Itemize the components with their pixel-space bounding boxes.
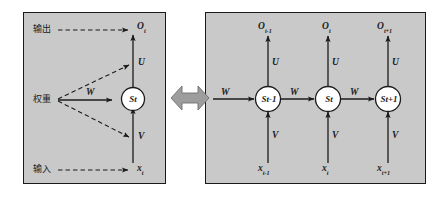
unfolded-weight-u-1: U (332, 58, 339, 68)
unfolded-input-var-1: xt (322, 164, 328, 175)
folded-output-annotation: 输出 (33, 25, 51, 34)
folded-weight-v-label: V (138, 132, 144, 142)
unfolded-output-sub-0: t-1 (265, 27, 272, 34)
rnn-equivalence-figure: O_t --> x_t --> S_t (the W arrow) --> U … (0, 0, 439, 200)
unfolded-output-base-2: O (377, 21, 384, 31)
folded-weight-annotation: 权重 (33, 95, 51, 104)
unfolded-output-base-0: O (258, 21, 265, 31)
unfolded-output-var-0: Ot-1 (258, 22, 272, 33)
unfolded-output-var-2: Ot+1 (377, 22, 392, 33)
unfolded-state-label-2: St+1 (377, 95, 401, 104)
unfolded-output-var-1: Ot (322, 22, 331, 33)
unfolded-weight-u-2: U (392, 58, 399, 68)
unfolded-weight-v-1: V (332, 131, 338, 141)
unfolded-input-sub-0: t-1 (263, 169, 270, 176)
folded-weight-u-label: U (138, 58, 145, 68)
unfolded-output-sub-2: t+1 (384, 27, 392, 34)
unfolded-weight-w-0: W (290, 88, 298, 98)
folded-output-var: Ot (137, 22, 146, 33)
unfolded-weight-v-2: V (392, 131, 398, 141)
unfolded-state-label-0: St-1 (256, 95, 282, 104)
folded-input-annotation: 输入 (33, 165, 51, 174)
unfolded-output-base-1: O (322, 21, 329, 31)
folded-state-sub: t (134, 94, 137, 104)
folded-weight-w-label: W (86, 88, 94, 98)
folded-state-label: St (123, 95, 143, 104)
double-headed-arrow-icon (171, 86, 209, 110)
unfolded-incoming-w-label: W (221, 88, 229, 98)
unfolded-state-sub-2: t+1 (385, 94, 397, 104)
folded-input-var: xt (137, 164, 143, 175)
unfolded-input-var-2: xt+1 (377, 164, 390, 175)
unfolded-state-sub-0: t-1 (267, 94, 277, 104)
unfolded-input-var-0: xt-1 (258, 164, 270, 175)
folded-output-var-sub: t (144, 27, 146, 34)
folded-output-var-base: O (137, 21, 144, 31)
unfolded-state-sub-1: t (330, 94, 333, 104)
unfolded-weight-u-0: U (272, 58, 279, 68)
unfolded-output-sub-1: t (329, 27, 331, 34)
unfolded-state-label-1: St (318, 95, 340, 104)
unfolded-weight-v-0: V (272, 131, 278, 141)
unfolded-weight-w-1: W (350, 88, 358, 98)
unfolded-input-sub-2: t+1 (382, 169, 390, 176)
